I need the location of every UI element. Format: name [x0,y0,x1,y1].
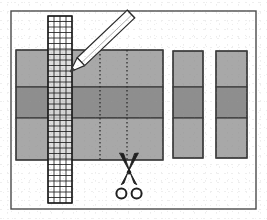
sheet-band-2 [16,118,163,160]
scissors-pivot [127,170,131,174]
scissors-handle-right [132,189,142,199]
grid-measuring-strip [48,16,72,203]
cut-piece-0-band-0 [173,51,203,87]
illustration-canvas [0,0,267,220]
figure-svg [0,0,267,220]
sheet-band-1 [16,87,163,118]
cut-piece-1-band-0 [216,51,247,87]
cut-piece-0-band-1 [173,87,203,118]
scissors-handle-left [116,189,126,199]
cut-piece-1-band-2 [216,118,247,158]
main-banded-sheet [16,50,163,160]
cut-piece-0-band-2 [173,118,203,158]
cut-piece-1-band-1 [216,87,247,118]
